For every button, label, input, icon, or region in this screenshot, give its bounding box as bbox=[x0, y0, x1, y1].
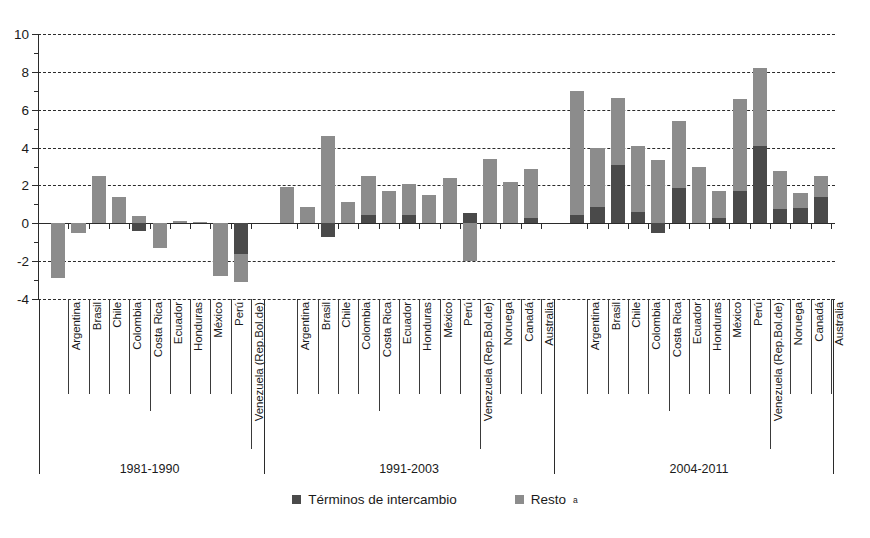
bar-segment-terminos bbox=[361, 215, 375, 224]
leader-line bbox=[150, 299, 151, 411]
y-tick-label: 8 bbox=[21, 64, 29, 79]
bar-chart: -4-20246810 ArgentinaBrasilChileColombia… bbox=[0, 0, 870, 538]
leader-line bbox=[338, 299, 339, 394]
x-tick bbox=[129, 223, 130, 229]
bar-segment-resto bbox=[234, 254, 248, 282]
leader-line bbox=[831, 299, 832, 394]
y-tick-label: 10 bbox=[14, 27, 29, 42]
bar-segment-resto bbox=[524, 169, 538, 217]
category-label-text: Chile bbox=[630, 302, 642, 328]
bar-segment-resto bbox=[92, 176, 106, 223]
leader-line bbox=[379, 299, 380, 411]
bar-segment-resto bbox=[712, 191, 726, 218]
category-label-text: Venezuela (Rep.Bol.de) bbox=[772, 302, 784, 421]
leader-line bbox=[440, 299, 441, 394]
bar-segment-terminos bbox=[814, 197, 828, 224]
category-label-text: Perú bbox=[752, 302, 764, 326]
x-tick bbox=[379, 223, 380, 229]
category-label-text: Colombia bbox=[650, 302, 662, 350]
group-separator bbox=[39, 299, 40, 474]
leader-line bbox=[628, 299, 629, 394]
bar-segment-terminos bbox=[234, 223, 248, 253]
bar-segment-resto bbox=[753, 68, 767, 146]
bar-segment-terminos bbox=[321, 223, 335, 236]
chart-legend: Términos de intercambio Restoa bbox=[0, 492, 870, 507]
x-tick bbox=[709, 223, 710, 229]
bar-segment-resto bbox=[611, 98, 625, 164]
group-label: 1991-2003 bbox=[379, 462, 439, 476]
leader-line bbox=[689, 299, 690, 394]
category-label-text: México bbox=[731, 302, 743, 338]
bar-segment-resto bbox=[793, 193, 807, 208]
category-label-text: Colombia bbox=[360, 302, 372, 350]
bar-segment-terminos bbox=[611, 165, 625, 224]
group-label: 2004-2011 bbox=[670, 462, 729, 476]
group-separator bbox=[554, 299, 555, 474]
x-tick bbox=[628, 223, 629, 229]
x-tick bbox=[440, 223, 441, 229]
y-tick-label: -2 bbox=[17, 254, 29, 269]
bar-segment-resto bbox=[463, 223, 477, 261]
leader-line bbox=[318, 299, 319, 394]
legend-item-resto: Restoa bbox=[515, 492, 578, 507]
leader-line bbox=[541, 299, 542, 394]
category-label-text: Noruega bbox=[792, 302, 804, 345]
bar-segment-terminos bbox=[463, 213, 477, 223]
category-label-text: Honduras bbox=[421, 302, 433, 351]
bar-segment-resto bbox=[321, 136, 335, 223]
x-tick bbox=[318, 223, 319, 229]
category-label-text: México bbox=[442, 302, 454, 338]
category-label-text: Argentina bbox=[70, 302, 82, 350]
bars-layer bbox=[38, 34, 833, 299]
bar-segment-terminos bbox=[672, 188, 686, 223]
bar-segment-resto bbox=[132, 216, 146, 224]
leader-line bbox=[480, 299, 481, 449]
y-tick-label: 4 bbox=[21, 140, 29, 155]
x-tick bbox=[648, 223, 649, 229]
x-tick bbox=[68, 223, 69, 229]
x-tick bbox=[541, 223, 542, 229]
x-tick bbox=[831, 223, 832, 229]
leader-line bbox=[170, 299, 171, 394]
bar-segment-terminos bbox=[132, 223, 146, 231]
bar-segment-resto bbox=[443, 178, 457, 223]
category-label-text: Brasil bbox=[91, 302, 103, 330]
bar-segment-resto bbox=[651, 160, 665, 223]
x-tick bbox=[89, 223, 90, 229]
y-tick-label: -4 bbox=[17, 292, 29, 307]
bar-segment-resto bbox=[503, 182, 517, 224]
bar-segment-resto bbox=[280, 187, 294, 223]
bar-segment-resto bbox=[422, 195, 436, 223]
x-tick bbox=[750, 223, 751, 229]
x-tick bbox=[689, 223, 690, 229]
plot-area: -4-20246810 bbox=[38, 34, 833, 299]
x-tick bbox=[608, 223, 609, 229]
x-tick bbox=[521, 223, 522, 229]
category-label-text: Brasil bbox=[610, 302, 622, 330]
leader-line bbox=[608, 299, 609, 394]
x-tick bbox=[669, 223, 670, 229]
legend-label-resto: Resto bbox=[531, 492, 566, 507]
x-tick bbox=[419, 223, 420, 229]
light-square-swatch-icon bbox=[515, 495, 524, 504]
bar-segment-resto bbox=[51, 223, 65, 278]
leader-line bbox=[521, 299, 522, 394]
x-tick bbox=[190, 223, 191, 229]
category-labels: ArgentinaBrasilChileColombiaCosta RicaEc… bbox=[38, 299, 833, 479]
x-tick bbox=[460, 223, 461, 229]
x-tick bbox=[480, 223, 481, 229]
category-label-text: México bbox=[212, 302, 224, 338]
category-label-text: Chile bbox=[340, 302, 352, 328]
category-label-text: Argentina bbox=[589, 302, 601, 350]
category-label-text: Ecuador bbox=[691, 302, 703, 344]
bar-segment-terminos bbox=[402, 215, 416, 224]
x-tick bbox=[500, 223, 501, 229]
group-separator bbox=[264, 299, 265, 474]
leader-line bbox=[399, 299, 400, 394]
bar-segment-resto bbox=[361, 176, 375, 215]
bar-segment-resto bbox=[71, 223, 85, 232]
category-label-text: Canadá bbox=[523, 302, 535, 342]
y-tick-label: 0 bbox=[21, 216, 29, 231]
y-tick-label: 2 bbox=[21, 178, 29, 193]
leader-line bbox=[190, 299, 191, 394]
